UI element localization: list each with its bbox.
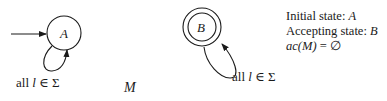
transition-a-prefix: all (16, 75, 32, 90)
ac-function: ac (286, 39, 298, 53)
transition-a-suffix: ∈ Σ (36, 75, 60, 90)
info-block: Initial state: A Accepting state: B ac(M… (286, 9, 378, 54)
accepting-state-text: Accepting state: (286, 24, 370, 38)
accepted-language-line: ac(M) = ∅ (286, 39, 378, 54)
accepting-state-line: Accepting state: B (286, 24, 378, 39)
ac-result: = ∅ (317, 39, 341, 53)
ac-argument: (M) (298, 39, 317, 53)
transition-b-prefix: all (232, 69, 248, 84)
machine-name: M (124, 80, 136, 96)
state-b-label: B (197, 21, 205, 34)
accepting-state-value: B (370, 24, 378, 38)
state-a-label: A (60, 27, 68, 40)
initial-state-line: Initial state: A (286, 9, 378, 24)
initial-state-value: A (348, 9, 356, 23)
transition-label-b: all l ∈ Σ (232, 70, 276, 83)
transition-b-suffix: ∈ Σ (252, 69, 276, 84)
transition-label-a: all l ∈ Σ (16, 76, 60, 89)
initial-state-text: Initial state: (286, 9, 348, 23)
